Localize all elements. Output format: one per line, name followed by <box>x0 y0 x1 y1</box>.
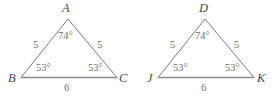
vertex-label-k: K <box>257 72 265 85</box>
side-label-dk: 5 <box>234 40 239 51</box>
vertex-label-d: D <box>199 2 208 15</box>
vertex-label-c: C <box>119 72 127 85</box>
side-label-ab: 5 <box>33 40 38 51</box>
angle-label-d: 74° <box>195 31 210 42</box>
angle-label-b: 53° <box>36 63 51 74</box>
vertex-label-a: A <box>62 2 70 15</box>
angle-label-j: 53° <box>173 63 188 74</box>
side-label-jk: 6 <box>201 83 206 94</box>
angle-label-c: 53° <box>88 63 103 74</box>
angle-label-k: 53° <box>225 63 240 74</box>
side-label-bc: 6 <box>64 83 69 94</box>
geometry-figure: A B C 5 5 6 74° 53° 53° D J K 5 5 6 74° … <box>0 0 276 98</box>
vertex-label-b: B <box>8 72 16 85</box>
angle-label-a: 74° <box>58 31 73 42</box>
side-label-ac: 5 <box>97 40 102 51</box>
side-label-dj: 5 <box>170 40 175 51</box>
vertex-label-j: J <box>147 72 153 85</box>
